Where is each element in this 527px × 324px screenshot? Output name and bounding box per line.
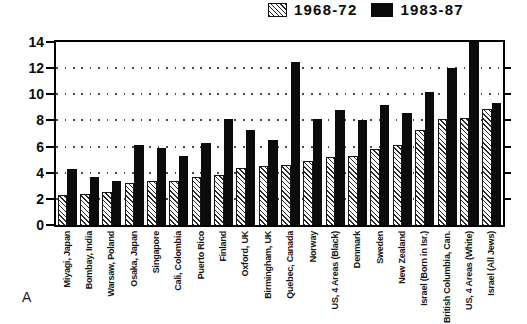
y-axis-tick-right-2 (505, 198, 511, 200)
y-axis-tick-left-14 (46, 41, 54, 43)
bar-group-3 (101, 42, 123, 225)
x-axis-label-8: Finland (219, 231, 228, 262)
legend-swatch-hatched-icon (268, 3, 287, 17)
y-axis-tick-right-8 (505, 119, 511, 121)
bar-1968-72-9 (236, 168, 246, 226)
bar-1968-72-20 (482, 109, 492, 225)
bar-1983-87-4 (134, 145, 144, 225)
bar-1968-72-7 (192, 177, 202, 225)
y-axis-tick-label-4: 4 (0, 164, 44, 182)
y-axis-tick-label-8: 8 (0, 111, 44, 129)
bar-1983-87-3 (112, 181, 122, 225)
legend-label-1983-87: 1983-87 (400, 1, 463, 18)
x-axis-label-2: Bombay, India (85, 231, 94, 289)
x-axis-label-11: Quebec, Canada (286, 231, 295, 299)
x-axis-label-14: Denmark (353, 231, 362, 268)
plot-area (54, 40, 505, 227)
bar-group-18 (436, 42, 458, 225)
x-axis-label-4: Osaka, Japan (130, 231, 139, 287)
bar-1968-72-10 (259, 166, 269, 225)
bar-1968-72-4 (125, 183, 135, 225)
bar-1968-72-16 (393, 145, 403, 225)
chart-legend: 1968-72 1983-87 (268, 1, 464, 18)
legend-swatch-solid-icon (371, 3, 393, 17)
bar-1983-87-14 (358, 120, 368, 225)
bar-group-14 (346, 42, 368, 225)
bar-group-5 (145, 42, 167, 225)
x-axis-label-17: Israel (Born in Isr.) (420, 231, 429, 306)
bar-1968-72-12 (303, 161, 313, 225)
bar-1983-87-9 (246, 130, 256, 225)
bar-1968-72-1 (58, 195, 68, 225)
bar-group-8 (212, 42, 234, 225)
bar-1983-87-7 (201, 143, 211, 225)
x-axis-label-20: Israel (All Jews) (487, 231, 496, 296)
y-axis-tick-label-12: 12 (0, 59, 44, 77)
bar-1983-87-15 (380, 105, 390, 225)
bar-1983-87-20 (492, 103, 502, 225)
bar-1968-72-2 (80, 194, 90, 225)
y-axis-tick-label-2: 2 (0, 190, 44, 208)
y-axis-tick-left-10 (46, 93, 54, 95)
y-axis-tick-right-6 (505, 146, 511, 148)
bar-group-7 (190, 42, 212, 225)
bar-1968-72-6 (169, 181, 179, 225)
x-axis-label-16: New Zealand (398, 231, 407, 284)
bar-group-9 (235, 42, 257, 225)
bar-1968-72-14 (348, 156, 358, 225)
x-axis-label-5: Singapore (152, 231, 161, 273)
bar-1983-87-19 (469, 42, 479, 225)
bars-layer (56, 42, 503, 225)
y-axis-tick-right-4 (505, 172, 511, 174)
bar-group-10 (257, 42, 279, 225)
bar-1983-87-18 (447, 68, 457, 225)
bar-group-20 (481, 42, 503, 225)
bar-1968-72-17 (415, 130, 425, 225)
y-axis-tick-label-10: 10 (0, 85, 44, 103)
bar-1983-87-10 (268, 140, 278, 225)
y-axis-tick-left-0 (46, 224, 54, 226)
bar-group-19 (458, 42, 480, 225)
bar-1983-87-16 (402, 113, 412, 225)
bar-group-13 (324, 42, 346, 225)
bar-group-15 (369, 42, 391, 225)
x-axis-label-7: Puerto Rico (197, 231, 206, 279)
legend-label-1968-72: 1968-72 (294, 1, 357, 18)
y-axis-tick-right-10 (505, 93, 511, 95)
bar-1968-72-18 (438, 119, 448, 225)
bar-group-2 (78, 42, 100, 225)
x-axis-label-6: Cali, Colombia (174, 231, 183, 291)
x-axis-label-18: British Columbia, Can. (443, 231, 452, 323)
bar-1968-72-13 (326, 157, 336, 225)
bar-1968-72-19 (460, 118, 470, 225)
x-axis-label-10: Birmingham, UK (264, 231, 273, 299)
bar-1983-87-12 (313, 119, 323, 225)
bar-1983-87-8 (224, 119, 234, 225)
bar-chart-figure: 1968-72 1983-87 A 02468101214Miyagi, Jap… (0, 0, 527, 324)
x-axis-label-13: US, 4 Areas (Black) (331, 231, 340, 309)
bar-1983-87-11 (291, 62, 301, 225)
x-axis-label-9: Oxford, UK (241, 231, 250, 277)
y-axis-tick-left-12 (46, 67, 54, 69)
x-axis-label-12: Norway (309, 231, 318, 262)
bar-1968-72-5 (147, 181, 157, 225)
y-axis-tick-left-6 (46, 146, 54, 148)
x-axis-label-1: Miyagi, Japan (63, 231, 72, 287)
bar-1983-87-1 (67, 169, 77, 225)
bar-group-1 (56, 42, 78, 225)
y-axis-tick-right-12 (505, 67, 511, 69)
bar-group-16 (391, 42, 413, 225)
bar-group-4 (123, 42, 145, 225)
bar-group-12 (302, 42, 324, 225)
y-axis-tick-left-8 (46, 119, 54, 121)
bar-1968-72-15 (370, 149, 380, 225)
panel-label: A (22, 289, 31, 305)
y-axis-tick-left-2 (46, 198, 54, 200)
bar-group-17 (414, 42, 436, 225)
x-axis-label-19: US, 4 Areas (White) (465, 231, 474, 310)
bar-1983-87-13 (335, 110, 345, 225)
x-axis-label-15: Sweden (376, 231, 385, 264)
bar-1983-87-2 (90, 177, 100, 225)
bar-group-11 (279, 42, 301, 225)
y-axis-tick-label-6: 6 (0, 138, 44, 156)
